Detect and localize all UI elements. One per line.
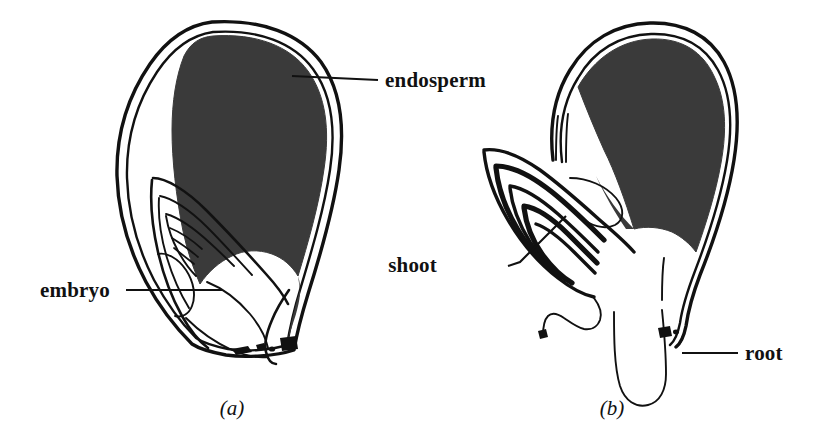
panel-b-group: (b)	[484, 23, 737, 420]
shoot-label: shoot	[388, 253, 437, 277]
seedling-axis-b	[543, 298, 601, 336]
endosperm-region-a	[172, 36, 327, 284]
root-region-b	[614, 310, 666, 406]
root-collar-b	[662, 258, 664, 300]
cotyledon-curve2-a	[207, 282, 268, 348]
embryo-label: embryo	[40, 278, 110, 302]
panel-a-group: (a)	[117, 22, 342, 420]
shoot-stalk-b	[556, 116, 558, 160]
root-collar-marks-b	[538, 326, 679, 339]
root-label: root	[745, 341, 783, 365]
endosperm-label: endosperm	[385, 68, 486, 92]
panel-a-caption: (a)	[220, 396, 245, 420]
shoot-stalk2-b	[566, 114, 568, 162]
panel-b-caption: (b)	[600, 396, 625, 420]
seed-diagram-figure: (a)	[0, 0, 824, 440]
seed-diagram-canvas: (a)	[0, 0, 824, 440]
